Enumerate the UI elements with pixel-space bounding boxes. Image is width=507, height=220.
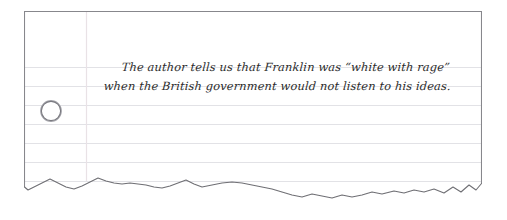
hole-punch-rim [41, 101, 60, 120]
note-line-1: The author tells us that Franklin was “w… [103, 58, 444, 77]
paper-graphic [24, 11, 482, 209]
torn-notebook-paper [24, 11, 482, 209]
hole-punch-icon [41, 101, 60, 120]
screenshot-canvas: The author tells us that Franklin was “w… [0, 0, 507, 220]
note-line-2: when the British government would not li… [103, 77, 444, 96]
paper-body [25, 12, 482, 199]
handwritten-note: The author tells us that Franklin was “w… [103, 58, 443, 96]
